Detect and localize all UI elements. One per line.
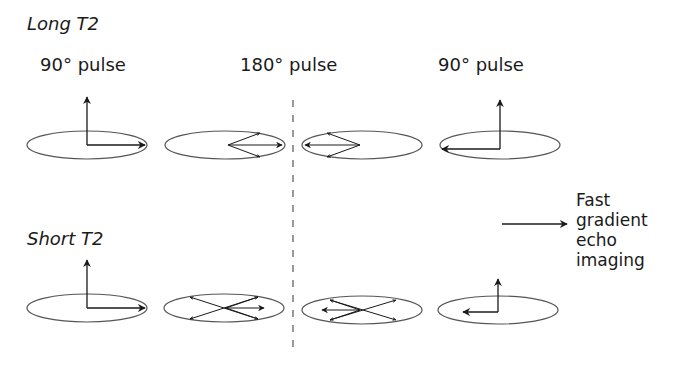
short-t2-state-4 xyxy=(438,279,558,324)
long-t2-state-3 xyxy=(302,131,422,159)
long-t2-state-1 xyxy=(27,97,147,159)
short-t2-state-2 xyxy=(164,294,284,322)
spin-echo-diagram xyxy=(0,0,689,371)
long-t2-state-2 xyxy=(165,131,285,159)
short-t2-state-1 xyxy=(27,260,147,322)
short-t2-state-3 xyxy=(302,296,422,324)
long-t2-state-4 xyxy=(440,100,560,159)
